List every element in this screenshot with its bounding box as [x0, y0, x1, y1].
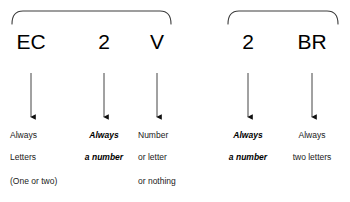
group-braces [12, 11, 338, 24]
desc-col-br-line-2: two letters [293, 153, 332, 162]
token-col-br: BR [297, 31, 326, 52]
desc-col-ec-line-2: Letters [10, 153, 36, 162]
desc-col-2-right-line-1: Always [233, 131, 262, 140]
token-col-v: V [150, 31, 164, 52]
desc-col-v-line-1: Number [138, 131, 168, 140]
desc-col-2-left-line-2: a number [85, 153, 123, 162]
token-col-ec: EC [16, 31, 45, 52]
desc-col-2-left-line-1: Always [89, 131, 118, 140]
brace-left-group [12, 11, 171, 24]
registration-code-diagram: EC2V2BR AlwaysLetters(One or two)Alwaysa… [0, 0, 350, 202]
brace-right-group [228, 11, 338, 24]
desc-col-ec-line-1: Always [10, 131, 37, 140]
desc-col-v-line-2: or letter [138, 153, 167, 162]
token-col-2-left: 2 [98, 31, 110, 52]
desc-col-v-line-3: or nothing [138, 177, 176, 186]
column-arrows [31, 73, 312, 117]
desc-col-br-line-1: Always [299, 131, 326, 140]
desc-col-ec-line-3: (One or two) [10, 177, 57, 186]
desc-col-2-right-line-2: a number [229, 153, 267, 162]
token-col-2-right: 2 [242, 31, 254, 52]
